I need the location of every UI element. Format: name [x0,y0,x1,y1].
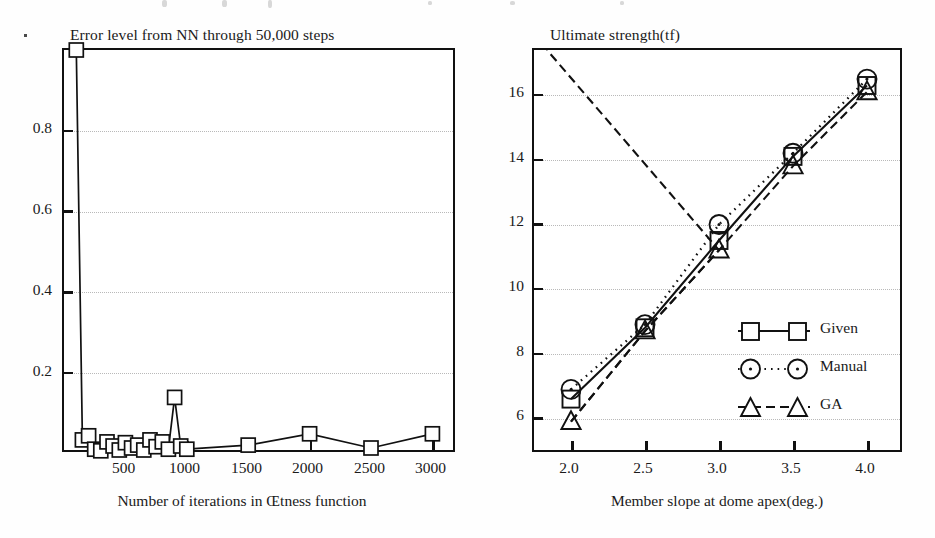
right-ytick-label-16: 16 [484,83,524,101]
left-xtick-label-2000: 2000 [277,459,338,477]
right-xtick-label-3_0: 3.0 [687,459,747,477]
right-xtick-label-3_5: 3.5 [761,459,821,477]
left-xtick-label-1000: 1000 [154,459,215,477]
square-marker-solid-line-icon [734,318,814,344]
legend-label-ga: GA [820,395,842,413]
left-ytick-label-0_6: 0.6 [6,200,52,218]
left-xtick-label-1500: 1500 [216,459,277,477]
right-xaxis-title: Member slope at dome apex(deg.) [522,492,912,510]
right-ytick-label-14: 14 [484,148,524,166]
right-ytick-label-10: 10 [484,277,524,295]
figure-two-panel-chart: Error level from NN through 50,000 steps [0,0,935,538]
left-xtick-label-3000: 3000 [400,459,461,477]
left-ytick-label-0_4: 0.4 [6,281,52,299]
right-ytick-label-8: 8 [484,342,524,360]
left-xtick-label-500: 500 [93,459,154,477]
legend-label-manual: Manual [820,357,867,375]
left-xaxis-title: Number of iterations in Œtness function [32,492,452,510]
right-xtick-label-2_5: 2.5 [613,459,673,477]
left-xtick-label-2500: 2500 [339,459,400,477]
left-plot-area [62,48,455,452]
right-xtick-label-2_0: 2.0 [539,459,599,477]
left-series-error-level [64,50,457,454]
right-panel: Ultimate strength(tf) [470,0,935,538]
left-ytick-label-0_2: 0.2 [6,362,52,380]
triangle-marker-dashed-line-icon [734,394,814,420]
right-plot-area: Given Manual [532,48,902,452]
right-ytick-label-6: 6 [484,406,524,424]
right-panel-title: Ultimate strength(tf) [550,26,680,44]
right-xtick-label-4_0: 4.0 [835,459,895,477]
legend-label-given: Given [820,319,858,337]
left-panel: Error level from NN through 50,000 steps [0,0,470,538]
legend: Given Manual [734,318,904,428]
left-panel-title: Error level from NN through 50,000 steps [70,26,334,44]
series-ga-line [547,50,719,422]
circle-marker-dotted-line-icon [734,356,814,382]
left-ytick-label-0_8: 0.8 [6,119,52,137]
right-ytick-label-12: 12 [484,212,524,230]
